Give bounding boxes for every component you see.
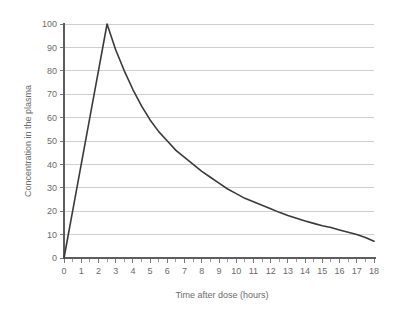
x-tick-label-2: 2 (96, 266, 101, 276)
x-tick-label-15: 15 (317, 266, 327, 276)
x-tick-label-4: 4 (130, 266, 135, 276)
x-tick-label-14: 14 (300, 266, 310, 276)
x-tick-label-5: 5 (148, 266, 153, 276)
x-axis-tick-labels: 0123456789101112131415161718 (61, 266, 379, 276)
x-axis-ticks (64, 258, 374, 263)
x-tick-label-17: 17 (352, 266, 362, 276)
y-tick-label-90: 90 (47, 43, 57, 53)
x-tick-label-11: 11 (249, 266, 258, 276)
y-tick-label-100: 100 (42, 19, 57, 29)
x-tick-label-9: 9 (216, 266, 221, 276)
x-tick-label-7: 7 (182, 266, 187, 276)
y-tick-label-80: 80 (47, 66, 57, 76)
y-tick-label-30: 30 (47, 183, 57, 193)
y-tick-label-20: 20 (47, 206, 57, 216)
x-tick-label-18: 18 (369, 266, 379, 276)
y-axis-tick-labels: 0102030405060708090100 (42, 19, 57, 263)
y-tick-label-40: 40 (47, 160, 57, 170)
x-tick-label-12: 12 (266, 266, 276, 276)
x-tick-label-0: 0 (61, 266, 66, 276)
y-tick-label-10: 10 (47, 230, 57, 240)
x-tick-label-16: 16 (335, 266, 345, 276)
plasma-concentration-chart: 0102030405060708090100 01234567891011121… (0, 0, 397, 310)
y-tick-label-50: 50 (47, 136, 57, 146)
y-axis-title: Concentration in the plasma (23, 85, 33, 197)
x-axis-title: Time after dose (hours) (175, 290, 268, 300)
x-tick-label-13: 13 (283, 266, 293, 276)
gridlines (64, 24, 374, 235)
x-tick-label-1: 1 (79, 266, 84, 276)
x-tick-label-10: 10 (231, 266, 241, 276)
y-tick-label-70: 70 (47, 89, 57, 99)
y-tick-label-60: 60 (47, 113, 57, 123)
y-tick-label-0: 0 (52, 253, 57, 263)
x-tick-label-6: 6 (165, 266, 170, 276)
x-tick-label-8: 8 (199, 266, 204, 276)
x-tick-label-3: 3 (113, 266, 118, 276)
chart-canvas: 0102030405060708090100 01234567891011121… (0, 0, 397, 310)
